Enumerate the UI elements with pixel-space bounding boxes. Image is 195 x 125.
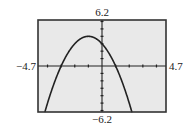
graph-screen: 6.2 −6.2 −4.7 4.7	[0, 0, 195, 125]
xmin-label: −4.7	[16, 60, 36, 72]
ymin-label: −6.2	[92, 113, 112, 125]
ymax-label: 6.2	[95, 6, 109, 18]
xmax-label: 4.7	[169, 60, 183, 72]
